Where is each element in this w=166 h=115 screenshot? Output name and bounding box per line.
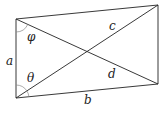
- label-c: c: [109, 19, 116, 33]
- quadrilateral-diagram: a b c d φ θ: [0, 0, 166, 115]
- angle-arc-theta: [16, 85, 27, 91]
- label-a: a: [6, 54, 13, 68]
- label-d: d: [108, 67, 116, 81]
- label-theta: θ: [27, 71, 35, 85]
- diagonal-d: [16, 19, 158, 84]
- side-top: [16, 5, 158, 19]
- label-phi: φ: [27, 30, 36, 44]
- label-b: b: [84, 93, 92, 107]
- angle-arc-bottom: [27, 91, 29, 97]
